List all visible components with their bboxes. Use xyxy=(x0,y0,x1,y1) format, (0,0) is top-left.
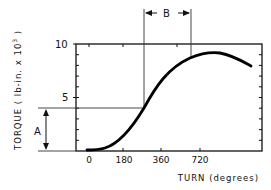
plot-frame xyxy=(76,44,262,151)
y-axis-label-main: TORQUE ( lb-in. x 10 xyxy=(13,43,23,151)
svg-text:TORQUE ( lb-in. x 103 ): TORQUE ( lb-in. x 103 ) xyxy=(11,30,23,151)
x-tick-180: 180 xyxy=(115,155,132,165)
x-tick-720: 720 xyxy=(191,155,208,165)
a-double-arrow-icon xyxy=(43,109,49,150)
x-tick-0: 0 xyxy=(86,155,92,165)
y-tick-5: 5 xyxy=(62,92,68,103)
torque-turn-chart: A B 10 5 0 180 360 720 TURN (degrees) TO… xyxy=(0,0,271,190)
label-b: B xyxy=(163,8,170,19)
y-tick-10: 10 xyxy=(55,39,68,50)
x-tick-360: 360 xyxy=(152,155,169,165)
y-axis-label: TORQUE ( lb-in. x 103 ) xyxy=(11,30,23,151)
torque-curve xyxy=(87,53,251,150)
y-axis-label-close: ) xyxy=(13,30,23,38)
label-a: A xyxy=(34,126,41,137)
x-axis-label: TURN (degrees) xyxy=(177,173,259,183)
